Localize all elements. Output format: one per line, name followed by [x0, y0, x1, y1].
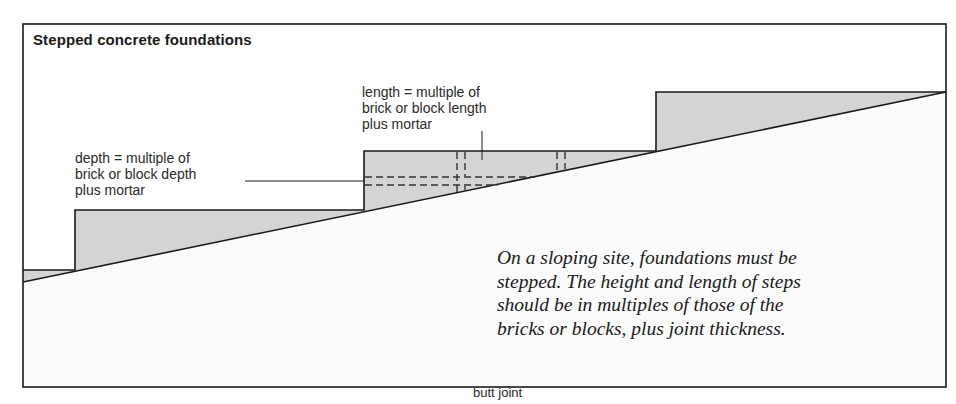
depth-label: depth = multiple of brick or block depth…	[75, 150, 196, 198]
length-label-line: plus mortar	[362, 116, 487, 132]
length-label-line: brick or block length	[362, 100, 487, 116]
note-line: stepped. The height and length of steps	[497, 270, 939, 294]
figure-title: Stepped concrete foundations	[33, 31, 252, 48]
note-line: bricks or blocks, plus joint thickness.	[497, 317, 939, 341]
length-label-line: length = multiple of	[362, 84, 487, 100]
foundation-diagram	[0, 0, 956, 404]
note-line: On a sloping site, foundations must be	[497, 246, 939, 270]
depth-label-line: brick or block depth	[75, 166, 196, 182]
butt-joint-caption: butt joint	[473, 385, 522, 400]
explanatory-note: On a sloping site, foundations must be s…	[497, 246, 939, 340]
length-label: length = multiple of brick or block leng…	[362, 84, 487, 132]
depth-label-line: depth = multiple of	[75, 150, 196, 166]
note-line: should be in multiples of those of the	[497, 293, 939, 317]
depth-label-line: plus mortar	[75, 182, 196, 198]
